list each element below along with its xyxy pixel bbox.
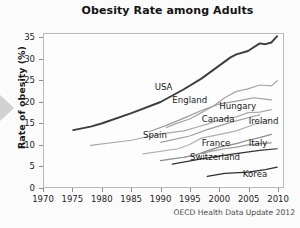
series-label-korea: Korea xyxy=(243,169,267,179)
y-tick-label: 20 xyxy=(13,97,35,107)
x-tick-mark xyxy=(249,188,250,192)
x-tick-mark xyxy=(72,188,73,192)
y-tick-label: 25 xyxy=(13,75,35,85)
series-label-hungary: Hungary xyxy=(219,101,256,111)
series-label-italy: Italy xyxy=(249,138,268,148)
series-label-france: France xyxy=(202,138,231,148)
series-label-switzerland: Switzerland xyxy=(190,152,240,162)
series-label-canada: Canada xyxy=(202,114,235,124)
series-label-usa: USA xyxy=(155,82,173,92)
x-tick-mark xyxy=(131,188,132,192)
x-tick-mark xyxy=(161,188,162,192)
series-line-usa xyxy=(73,36,277,130)
y-tick-label: 10 xyxy=(13,140,35,150)
y-tick-label: 30 xyxy=(13,54,35,64)
series-label-spain: Spain xyxy=(143,130,167,140)
x-tick-mark xyxy=(43,188,44,192)
y-tick-label: 0 xyxy=(13,183,35,193)
series-label-england: England xyxy=(172,95,207,105)
x-tick-mark xyxy=(102,188,103,192)
y-tick-label: 35 xyxy=(13,32,35,42)
x-tick-mark xyxy=(190,188,191,192)
y-tick-label: 15 xyxy=(13,118,35,128)
y-tick-label: 5 xyxy=(13,161,35,171)
chart-figure: Obesity Rate among Adults Rate of obesit… xyxy=(0,0,300,228)
series-label-ireland: Ireland xyxy=(249,116,279,126)
x-tick-label: 2010 xyxy=(261,194,295,204)
source-note: OECD Health Data Update 2012 xyxy=(140,208,295,217)
x-tick-mark xyxy=(219,188,220,192)
x-tick-mark xyxy=(278,188,279,192)
